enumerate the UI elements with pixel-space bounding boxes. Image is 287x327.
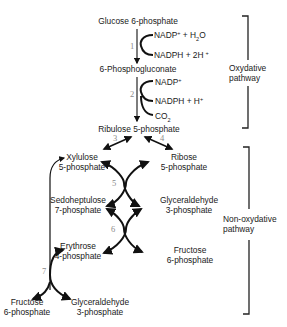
step-5-number: 5: [112, 178, 116, 188]
step-3-arrow: [104, 137, 131, 149]
non-oxydative-bracket-bottom: [243, 240, 249, 314]
step-6-number: 6: [111, 224, 115, 234]
step-2-cofactor-curve-a: [141, 81, 153, 101]
non-oxydative-pathway-label: Non-oxydativepathway: [223, 214, 277, 234]
step-4-arrow: [145, 137, 172, 149]
xylulose-5-phosphate-label: Xylulose5-phosphate: [59, 152, 106, 172]
non-oxydative-bracket-top: [243, 147, 249, 209]
step-2-co2: CO2: [155, 111, 171, 123]
sedoheptulose-7-phosphate-label: Sedoheptulose7-phosphate: [50, 195, 106, 215]
step-1-cofactor-in: NADP+ + H2O: [154, 30, 206, 42]
oxydative-pathway-label: Oxydativepathway: [229, 63, 267, 83]
step-4-number: 4: [160, 133, 165, 143]
step-1-number: 1: [130, 41, 134, 51]
step-2-cofactor-in: NADP+: [155, 77, 182, 87]
fructose-6-phosphate-bottom-label: Fructose6-phosphate: [4, 297, 51, 317]
pentose-phosphate-pathway-diagram: Glucose 6-phosphate 1 NADP+ + H2O NADPH …: [0, 0, 287, 327]
glucose-6-phosphate-label: Glucose 6-phosphate: [98, 16, 178, 26]
step-3-number: 3: [113, 133, 117, 143]
step-6-curve-b: [104, 209, 141, 253]
step-7-number: 7: [42, 266, 46, 276]
6-phosphogluconate-label: 6-Phosphogluconate: [100, 64, 177, 74]
fructose-6-phosphate-mid-label: Fructose6-phosphate: [167, 245, 214, 265]
step-7-return-line: [50, 158, 64, 290]
step-5-curve-a: [102, 162, 139, 206]
glyceraldehyde-3-phosphate-mid-label: Glyceraldehyde3-phosphate: [160, 195, 219, 215]
ribose-5-phosphate-label: Ribose5-phosphate: [161, 152, 208, 172]
step-2-number: 2: [130, 89, 134, 99]
ribulose-5-phosphate-label: Ribulose 5-phosphate: [98, 124, 180, 134]
step-2-cofactor-out: NADPH + H+: [155, 96, 203, 106]
oxydative-bracket-bottom: [242, 86, 248, 128]
oxydative-bracket-top: [242, 16, 248, 60]
step-1-cofactor-out: NADPH + 2H+: [154, 50, 209, 60]
step-1-cofactor-curve: [141, 35, 153, 55]
glyceraldehyde-3-phosphate-bottom-label: Glyceraldehyde3-phosphate: [71, 297, 130, 317]
